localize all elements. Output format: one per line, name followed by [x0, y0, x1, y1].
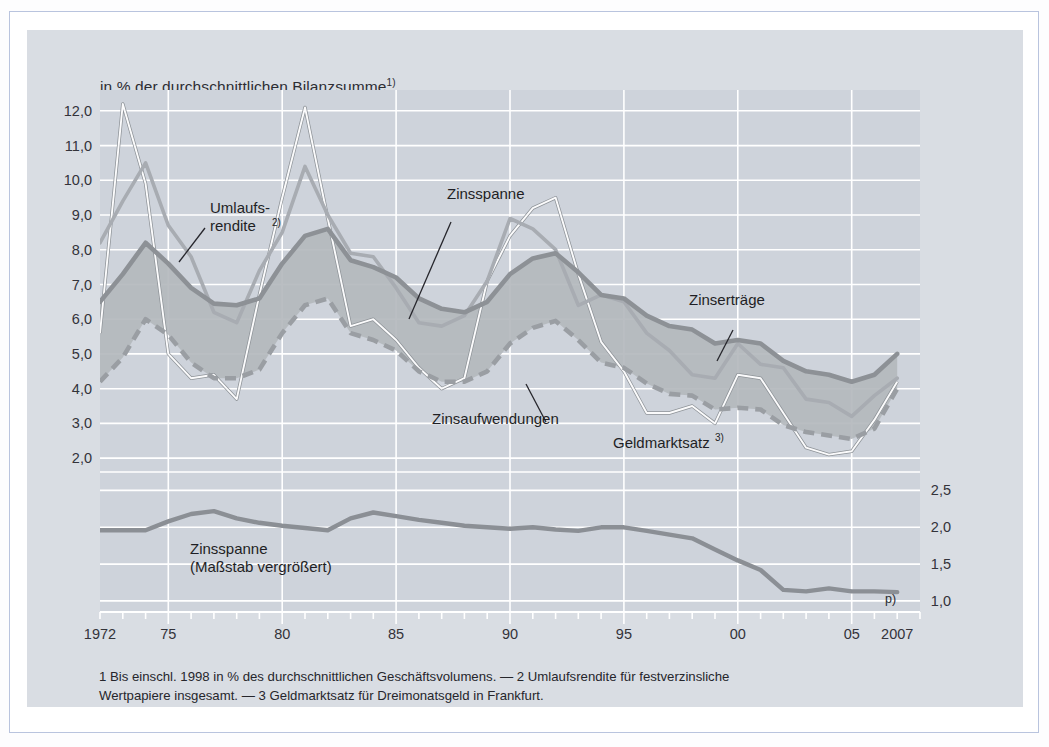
y-tick-label: 6,0 [72, 311, 92, 327]
x-tick-label: 95 [616, 626, 632, 642]
annotation-zinsspanne-lower-line1: Zinsspanne [190, 540, 268, 557]
y-axis-labels-right: 2,52,01,51,0 [931, 482, 951, 609]
y-tick-label: 11,0 [65, 138, 92, 154]
x-tick-label: 75 [160, 626, 176, 642]
y-tick-label: 8,0 [72, 242, 92, 258]
chart-svg: 12,011,010,09,08,07,06,05,04,03,02,0 2,5… [27, 30, 1023, 707]
annotation-zinsaufwendungen: Zinsaufwendungen [432, 410, 559, 427]
provisional-flag: p) [885, 592, 896, 606]
chart-panel: in % der durchschnittlichen Bilanzsumme1… [27, 30, 1023, 707]
y-tick-label: 3,0 [72, 415, 92, 431]
annotation-zinsspanne: Zinsspanne [447, 185, 525, 202]
y-tick-label: 5,0 [72, 346, 92, 362]
y-tick-label-right: 2,0 [931, 519, 951, 535]
footnote-line-2: Wertpapiere insgesamt. — 3 Geldmarktsatz… [99, 686, 929, 705]
x-tick-label: 85 [388, 626, 404, 642]
x-tick-label: 2007 [881, 626, 913, 642]
footnotes: 1 Bis einschl. 1998 in % des durchschnit… [99, 667, 929, 705]
y-tick-label-right: 1,5 [931, 556, 951, 572]
figure-page: in % der durchschnittlichen Bilanzsumme1… [0, 0, 1049, 747]
x-axis-labels: 1972758085909500052007 [84, 626, 913, 642]
x-tick-label: 05 [844, 626, 860, 642]
y-tick-label: 9,0 [72, 207, 92, 223]
annotation-geldmarktsatz: Geldmarktsatz [613, 434, 710, 451]
annotation-umlaufsrendite-line2: rendite [210, 217, 256, 234]
y-tick-label-right: 1,0 [931, 593, 951, 609]
x-tick-label: 80 [274, 626, 290, 642]
x-tick-label: 1972 [84, 626, 116, 642]
y-tick-label-right: 2,5 [931, 482, 951, 498]
footnote-line-1: 1 Bis einschl. 1998 in % des durchschnit… [99, 667, 929, 686]
annotation-zinsspanne-lower-line2: (Maßstab vergrößert) [190, 558, 332, 575]
x-tick-label: 90 [502, 626, 518, 642]
annotation-umlaufsrendite-footnote-marker: 2) [272, 217, 281, 228]
x-axis-ticks [100, 612, 920, 624]
y-axis-labels: 12,011,010,09,08,07,06,05,04,03,02,0 [64, 103, 92, 466]
y-tick-label: 7,0 [72, 277, 92, 293]
annotation-zinsertraege: Zinserträge [689, 291, 765, 308]
page-frame: in % der durchschnittlichen Bilanzsumme1… [9, 11, 1039, 733]
x-tick-label: 00 [730, 626, 746, 642]
y-tick-label: 10,0 [64, 172, 92, 188]
annotation-geldmarktsatz-footnote-marker: 3) [715, 432, 724, 443]
annotation-umlaufsrendite-line1: Umlaufs- [210, 199, 270, 216]
y-tick-label: 12,0 [64, 103, 92, 119]
y-tick-label: 2,0 [72, 450, 92, 466]
y-tick-label: 4,0 [72, 381, 92, 397]
